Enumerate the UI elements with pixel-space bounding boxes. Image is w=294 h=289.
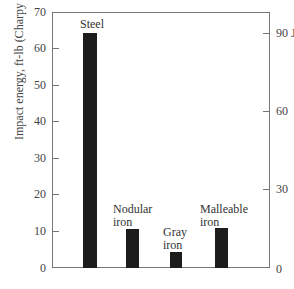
bar-gray-iron (170, 252, 182, 268)
bar-label-steel: Steel (80, 18, 104, 31)
left-tick-label: 70 (16, 6, 46, 18)
left-tick-label: 30 (16, 152, 46, 164)
left-tick-20 (52, 194, 59, 195)
left-tick-50 (52, 85, 59, 86)
left-tick-40 (52, 121, 59, 122)
bar-nodular-iron (126, 229, 139, 268)
bar-steel (83, 33, 97, 268)
left-tick-10 (52, 231, 59, 232)
impact-energy-chart: Impact energy, ft-lb (Charpy V-notch) 70… (0, 0, 294, 289)
right-tick-90 (263, 33, 270, 34)
left-tick-label: 0 (16, 262, 46, 274)
left-tick-label: 40 (16, 115, 46, 127)
bar-label-nodular-iron: Nodular iron (113, 203, 152, 229)
right-tick-30 (263, 189, 270, 190)
right-tick-label: 0 (276, 263, 282, 275)
bar-label-gray-iron: Gray iron (163, 226, 187, 252)
left-tick-label: 20 (16, 188, 46, 200)
left-tick-60 (52, 48, 59, 49)
right-tick-label: 90 J (276, 27, 294, 39)
bar-malleable-iron (215, 228, 228, 268)
right-tick-label: 60 (276, 105, 288, 117)
bar-label-malleable-iron: Malleable iron (200, 203, 248, 229)
right-tick-label: 30 (276, 183, 288, 195)
left-tick-label: 10 (16, 225, 46, 237)
left-tick-30 (52, 158, 59, 159)
right-tick-60 (263, 111, 270, 112)
left-tick-label: 60 (16, 42, 46, 54)
left-tick-label: 50 (16, 79, 46, 91)
